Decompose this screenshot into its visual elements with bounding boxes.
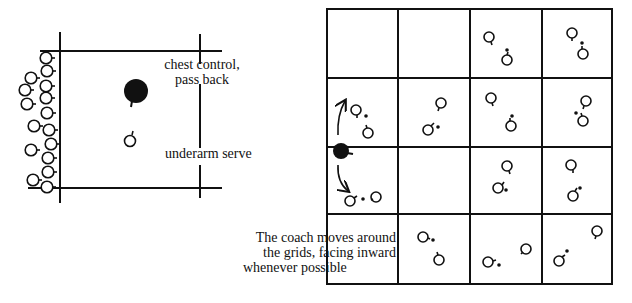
coach-marker [333,143,353,159]
caption-line-1: The coach moves around [224,230,396,245]
player-queue [19,52,60,193]
caption-line-3: whenever possible [224,260,396,275]
receiver-player [125,131,136,147]
label-underarm-serve: underarm serve [165,146,252,161]
caption-line-2: the grids, facing inward [224,245,396,260]
caption: The coach moves around the grids, facing… [224,230,396,275]
server-player [124,79,148,107]
label-pass-back: pass back [152,72,252,87]
label-chest-control: chest control, [152,57,252,72]
